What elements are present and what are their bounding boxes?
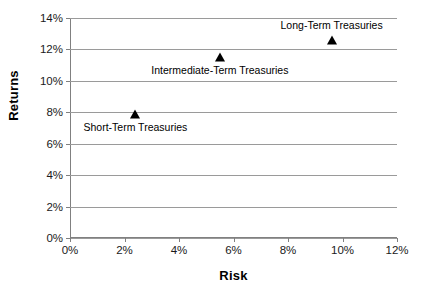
y-tick-label: 8% [46,106,63,118]
x-tick-label: 0% [62,244,79,256]
y-axis-title: Returns [6,56,21,136]
x-tick-label: 10% [331,244,354,256]
x-tick-label: 8% [280,244,297,256]
y-tick-label: 4% [46,169,63,181]
data-point-label: Long-Term Treasuries [281,19,383,31]
y-tick-mark [66,18,70,19]
triangle-marker-icon [327,36,337,45]
y-tick-mark [66,49,70,50]
x-axis-title: Risk [70,268,397,283]
data-point-label: Short-Term Treasuries [83,121,187,133]
x-tick-mark [70,238,71,242]
x-tick-label: 4% [171,244,188,256]
y-tick-mark [66,81,70,82]
triangle-marker-icon [215,53,225,62]
scatter-chart: Returns 0%2%4%6%8%10%12%14% 0%2%4%6%8%10… [0,0,424,293]
y-tick-label: 2% [46,201,63,213]
y-tick-label: 10% [40,75,63,87]
y-tick-mark [66,175,70,176]
y-tick-label: 12% [40,43,63,55]
x-tick-mark [179,238,180,242]
data-point-label: Intermediate-Term Treasuries [151,64,288,76]
y-tick-label: 0% [46,232,63,244]
x-tick-mark [343,238,344,242]
y-tick-mark [66,207,70,208]
y-tick-label: 14% [40,12,63,24]
plot-area: 0%2%4%6%8%10%12%14% 0%2%4%6%8%10%12% Sho… [70,18,397,238]
y-tick-mark [66,144,70,145]
gridline [70,49,397,50]
x-tick-label: 12% [385,244,408,256]
gridline [70,175,397,176]
gridline [70,144,397,145]
x-tick-mark [125,238,126,242]
x-tick-label: 2% [116,244,133,256]
triangle-marker-icon [130,109,140,118]
gridline [70,207,397,208]
gridline [70,81,397,82]
y-tick-label: 6% [46,138,63,150]
gridline [70,112,397,113]
x-tick-label: 6% [225,244,242,256]
x-tick-mark [234,238,235,242]
x-tick-mark [397,238,398,242]
y-tick-mark [66,112,70,113]
x-tick-mark [288,238,289,242]
